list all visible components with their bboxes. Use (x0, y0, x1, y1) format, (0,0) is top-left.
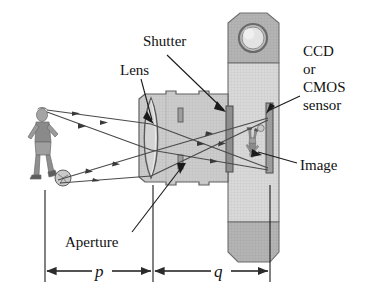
label-shutter: Shutter (143, 34, 186, 50)
ccd-cmos-sensor-element (266, 103, 273, 173)
label-aperture: Aperture (65, 235, 118, 251)
label-ccd: CCD (303, 44, 334, 60)
label-cmos: CMOS (303, 80, 346, 96)
label-lens: Lens (120, 63, 149, 79)
label-object-distance-p: p (95, 263, 104, 281)
label-image: Image (300, 158, 337, 174)
label-image-distance-q: q (214, 263, 223, 281)
label-or: or (303, 62, 316, 78)
label-sensor: sensor (303, 98, 341, 114)
camera-optics-figure: Shutter Lens CCD or CMOS sensor Image Ap… (0, 0, 381, 297)
